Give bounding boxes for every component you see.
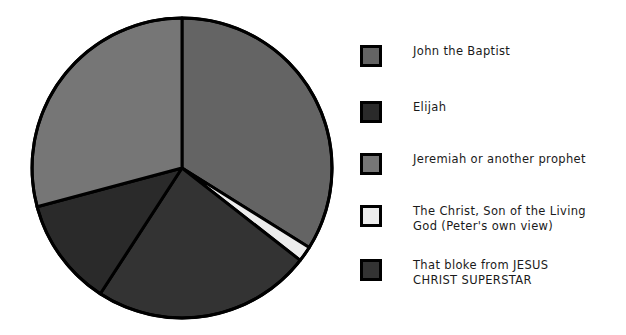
legend-item-jeremiah-or-another-prophet[interactable]: Jeremiah or another prophet [360,152,586,175]
pie-slice-group [32,18,332,318]
legend-swatch-john-the-baptist [360,45,382,67]
legend-label-john-the-baptist: John the Baptist [413,44,510,59]
legend-item-the-christ-son-of-the-living-god[interactable]: The Christ, Son of the Living God (Peter… [360,204,586,233]
legend-label-that-bloke-from-jesus-christ-superstar: That bloke from JESUS CHRIST SUPERSTAR [413,258,548,287]
legend-swatch-jeremiah-or-another-prophet [360,153,382,175]
legend-item-elijah[interactable]: Elijah [360,100,446,123]
pie-chart-svg [0,0,352,335]
legend-swatch-elijah [360,101,382,123]
legend-swatch-that-bloke-from-jesus-christ-superstar [360,259,382,281]
pie-chart-plot-area [0,0,352,335]
chart-legend: John the Baptist Elijah Jeremiah or anot… [360,28,622,318]
legend-item-that-bloke-from-jesus-christ-superstar[interactable]: That bloke from JESUS CHRIST SUPERSTAR [360,258,548,287]
legend-label-elijah: Elijah [413,100,446,115]
legend-swatch-the-christ-son-of-the-living-god [360,205,382,227]
legend-label-jeremiah-or-another-prophet: Jeremiah or another prophet [413,152,586,167]
legend-item-john-the-baptist[interactable]: John the Baptist [360,44,510,67]
legend-label-the-christ-son-of-the-living-god: The Christ, Son of the Living God (Peter… [413,204,586,233]
pie-chart-figure: John the Baptist Elijah Jeremiah or anot… [0,0,626,335]
